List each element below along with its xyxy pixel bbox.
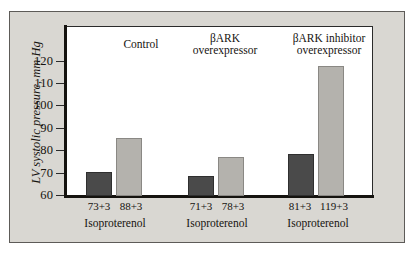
- bar-bark-inhibitor-isoproterenol: [318, 66, 344, 196]
- y-tick-120: [56, 61, 64, 62]
- y-axis-line: [64, 25, 67, 198]
- y-tick-label-80: 80: [13, 144, 53, 157]
- y-tick-label-100: 100: [13, 99, 53, 112]
- bar-control-isoproterenol: [116, 138, 142, 196]
- y-tick-100: [56, 105, 64, 106]
- value-label-control-isoproterenol: 88+3: [112, 201, 150, 212]
- bar-bark-overexpressor-isoproterenol: [218, 157, 244, 196]
- y-tick-label-60: 60: [13, 189, 53, 202]
- bar-control-baseline: [86, 172, 112, 196]
- y-tick-110: [56, 83, 64, 84]
- treatment-label-control: Isoproterenol: [65, 218, 165, 230]
- group-title-bark-inhibitor: βARK inhibitor overexpressor: [270, 32, 388, 57]
- value-label-bark-inhibitor-isoproterenol: 119+3: [313, 201, 355, 212]
- y-tick-label-120: 120: [13, 55, 53, 68]
- y-tick-label-90: 90: [13, 122, 53, 135]
- y-tick-80: [56, 150, 64, 151]
- treatment-label-bark-overexpressor: Isoproterenol: [167, 218, 267, 230]
- group-title-bark-inhibitor-line1: βARK inhibitor: [270, 32, 388, 44]
- group-title-bark-overexpressor-line2: overexpressor: [170, 44, 280, 56]
- group-title-bark-overexpressor: βARK overexpressor: [170, 32, 280, 57]
- bar-bark-overexpressor-baseline: [188, 176, 214, 196]
- y-tick-label-110: 110: [13, 77, 53, 90]
- y-tick-label-70: 70: [13, 167, 53, 180]
- treatment-label-bark-inhibitor: Isoproterenol: [268, 218, 368, 230]
- group-title-bark-inhibitor-line2: overexpressor: [270, 44, 388, 56]
- y-tick-60: [56, 195, 64, 196]
- y-tick-90: [56, 128, 64, 129]
- y-tick-70: [56, 173, 64, 174]
- group-title-bark-overexpressor-line1: βARK: [170, 32, 280, 44]
- figure-container: LV systolic pressure, mm Hg 120 110 100 …: [0, 0, 416, 258]
- bar-bark-inhibitor-baseline: [288, 154, 314, 196]
- value-label-bark-overexpressor-isoproterenol: 78+3: [214, 201, 252, 212]
